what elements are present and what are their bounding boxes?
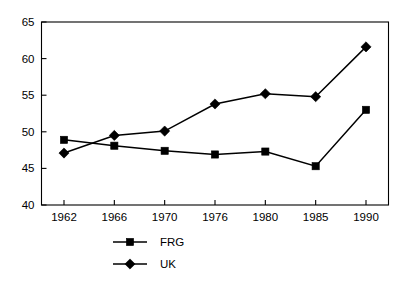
x-axis-labels: 1962196619701976198019851990 (51, 211, 379, 223)
y-tick-label: 60 (22, 53, 35, 65)
x-tick-label: 1990 (353, 211, 379, 223)
y-tick-label: 45 (22, 162, 35, 174)
legend-item-UK: UK (113, 258, 176, 270)
data-point-FRG-1962 (60, 136, 67, 143)
data-point-FRG-1966 (111, 142, 118, 149)
legend-marker-square-icon (126, 238, 133, 245)
y-axis-labels: 404550556065 (22, 16, 35, 211)
legend-label: UK (160, 258, 176, 270)
data-series-group (59, 42, 371, 170)
data-point-UK-1970 (160, 126, 170, 136)
data-point-UK-1962 (59, 148, 69, 158)
x-tick-label: 1962 (51, 211, 77, 223)
data-point-FRG-1985 (312, 163, 319, 170)
chart-legend: FRGUK (113, 236, 184, 270)
x-axis-ticks (64, 200, 366, 205)
x-tick-label: 1970 (152, 211, 178, 223)
y-tick-label: 50 (22, 126, 35, 138)
legend-item-FRG: FRG (113, 236, 184, 248)
plot-frame (42, 22, 389, 205)
y-axis-ticks (42, 22, 47, 205)
y-tick-label: 40 (22, 199, 35, 211)
legend-label: FRG (160, 236, 184, 248)
y-tick-label: 65 (22, 16, 35, 28)
series-UK (59, 42, 371, 158)
data-point-UK-1980 (260, 89, 270, 99)
legend-marker-diamond-icon (125, 259, 135, 269)
x-tick-label: 1966 (102, 211, 128, 223)
data-point-UK-1976 (210, 99, 220, 109)
data-point-UK-1966 (109, 130, 119, 140)
x-tick-label: 1976 (202, 211, 228, 223)
data-point-FRG-1976 (211, 151, 218, 158)
chart-canvas: 404550556065 196219661970197619801985199… (0, 0, 408, 282)
line-chart: 404550556065 196219661970197619801985199… (0, 0, 408, 282)
y-tick-label: 55 (22, 89, 35, 101)
x-tick-label: 1985 (303, 211, 329, 223)
data-point-FRG-1980 (262, 148, 269, 155)
x-tick-label: 1980 (253, 211, 279, 223)
data-point-FRG-1990 (362, 106, 369, 113)
data-point-FRG-1970 (161, 147, 168, 154)
